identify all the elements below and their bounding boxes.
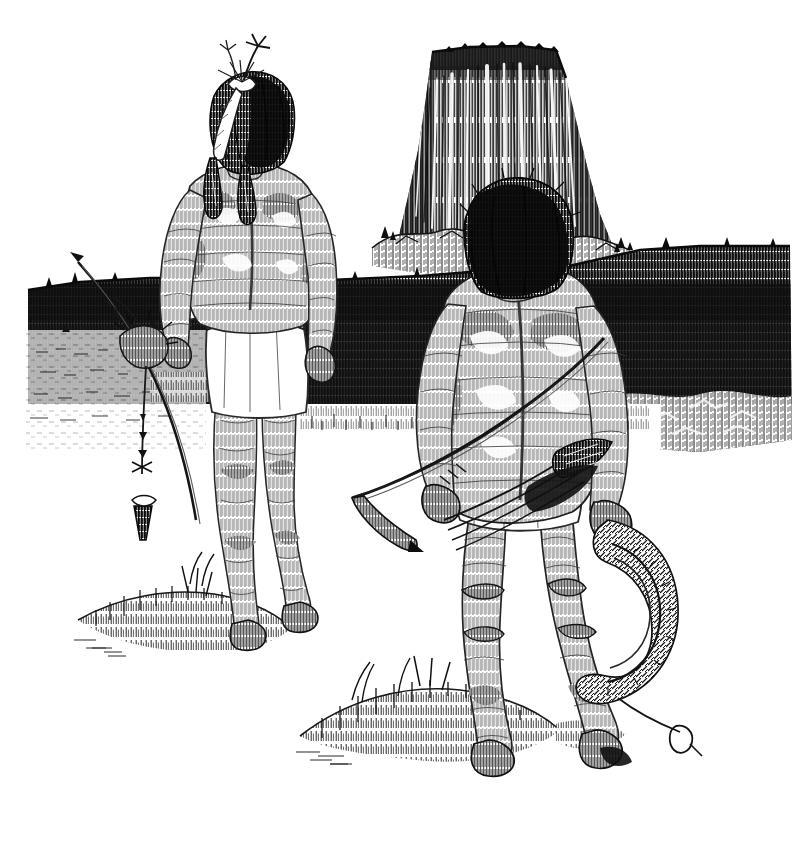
rear-figure-hand-right (305, 346, 335, 382)
ink-drawing: Devils Tower (0, 0, 809, 841)
illustration-canvas: Two Plains Indian Men Walking Toward Dev… (0, 0, 809, 841)
front-figure-label: Man with bow (0, 0, 98, 3)
